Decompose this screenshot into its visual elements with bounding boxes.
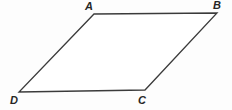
vertex-label-b: B <box>213 0 221 11</box>
vertex-label-a: A <box>85 1 93 12</box>
vertex-label-d: D <box>10 95 18 106</box>
parallelogram-drawing <box>0 0 232 110</box>
parallelogram-shape <box>19 13 217 92</box>
geometry-figure-canvas: A B C D <box>0 0 232 110</box>
vertex-label-c: C <box>138 95 146 106</box>
